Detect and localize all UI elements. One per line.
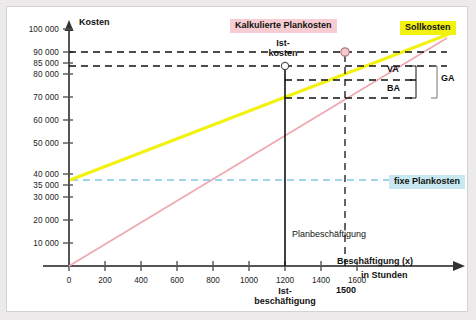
annotation-ist-beschaeftigung: Ist- beschäftigung <box>241 286 329 306</box>
y-tick-label-80000: 80 000 <box>11 70 59 79</box>
badge-fixe-plankosten: fixe Plankosten <box>389 175 465 189</box>
y-tick-label-20000: 20 000 <box>11 216 59 225</box>
ist-beschaeftigung-line1: Ist- <box>278 286 292 296</box>
marker-plankosten <box>341 48 349 56</box>
y-tick-label-30000: 30 000 <box>11 193 59 202</box>
x-tick-label-400: 400 <box>127 276 155 285</box>
y-tick-label-85000: 85 000 <box>11 59 59 68</box>
annotation-1500: 1500 <box>329 285 363 295</box>
badge-kalkulierte-plankosten: Kalkulierte Plankosten <box>230 19 337 33</box>
y-tick-label-50000: 50 000 <box>11 139 59 148</box>
badge-sollkosten: Sollkosten <box>400 21 456 35</box>
y-tick-label-60000: 60 000 <box>11 116 59 125</box>
y-tick-label-40000: 40 000 <box>11 170 59 179</box>
annotation-planbeschaeftigung: Planbeschäftigung <box>269 229 389 239</box>
ist-kosten-line2: kosten <box>268 48 297 58</box>
x-axis-title: Beschäftigung (x) <box>337 256 413 266</box>
x-tick-label-1400: 1400 <box>307 276 335 285</box>
ga-bracket <box>431 66 437 98</box>
y-tick-label-90000: 90 000 <box>11 48 59 57</box>
va-bracket <box>410 66 416 80</box>
marker-ist-kosten <box>281 62 288 69</box>
y-tick-label-100000: 100 000 <box>11 25 59 34</box>
x-tick-label-200: 200 <box>91 276 119 285</box>
ist-kosten-line1: Ist- <box>276 38 290 48</box>
y-axis-title: Kosten <box>79 17 110 27</box>
x-tick-label-800: 800 <box>199 276 227 285</box>
ba-bracket <box>410 80 416 98</box>
y-tick-label-10000: 10 000 <box>11 239 59 248</box>
y-tick-label-70000: 70 000 <box>11 93 59 102</box>
annotation-ist-kosten: Ist- kosten <box>259 38 307 58</box>
x-tick-label-1200: 1200 <box>271 276 299 285</box>
x-tick-label-600: 600 <box>163 276 191 285</box>
y-tick-label-35000: 35 000 <box>11 181 59 190</box>
chart-plot-area <box>7 7 469 313</box>
x-axis-title-units: in Stunden <box>361 270 408 280</box>
annotation-ga: GA <box>441 73 455 83</box>
annotation-va: VA <box>387 64 399 74</box>
chart-card: 100 000 90 000 85 000 80 000 70 000 60 0… <box>6 6 468 312</box>
annotation-ba: BA <box>387 83 400 93</box>
x-axis-arrow <box>453 261 465 271</box>
ist-beschaeftigung-line2: beschäftigung <box>254 296 316 306</box>
x-tick-label-1000: 1000 <box>235 276 263 285</box>
x-tick-label-0: 0 <box>55 276 83 285</box>
